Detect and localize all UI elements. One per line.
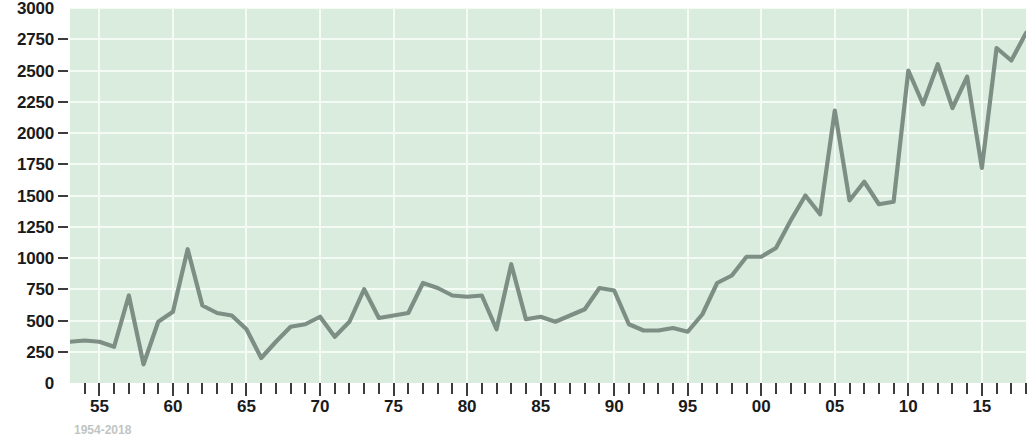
x-axis-label: 90 xyxy=(605,398,624,415)
y-axis-tick xyxy=(58,288,68,290)
x-axis-tick xyxy=(598,383,600,394)
y-axis-tick xyxy=(58,320,68,322)
x-axis-tick-major xyxy=(319,383,321,396)
x-axis-tick xyxy=(113,383,115,394)
x-axis-tick xyxy=(1010,383,1012,394)
y-axis-label: 500 xyxy=(26,312,54,329)
y-axis-label: 3000 xyxy=(17,0,54,17)
x-axis-tick xyxy=(275,383,277,394)
x-axis: 55606570758085909500051015 xyxy=(70,383,1026,435)
y-axis-label: 1500 xyxy=(17,187,54,204)
x-axis-tick-major xyxy=(540,383,542,396)
x-axis-tick xyxy=(290,383,292,394)
x-axis-tick xyxy=(966,383,968,394)
y-axis-label: 250 xyxy=(26,343,54,360)
x-axis-tick xyxy=(510,383,512,394)
x-axis-tick xyxy=(84,383,86,394)
x-axis-tick xyxy=(201,383,203,394)
x-axis-tick-major xyxy=(687,383,689,396)
y-axis-label: 1750 xyxy=(17,156,54,173)
x-axis-label: 60 xyxy=(163,398,182,415)
chart-caption: 1954-2018 xyxy=(74,424,131,435)
x-axis-tick xyxy=(437,383,439,394)
x-axis-label: 75 xyxy=(384,398,403,415)
x-axis-tick xyxy=(569,383,571,394)
x-axis-label: 95 xyxy=(678,398,697,415)
x-axis-tick-major xyxy=(466,383,468,396)
y-axis-label: 2750 xyxy=(17,31,54,48)
x-axis-tick xyxy=(893,383,895,394)
y-axis-tick xyxy=(58,38,68,40)
x-axis-tick xyxy=(746,383,748,394)
x-axis-tick xyxy=(951,383,953,394)
y-axis-label: 2250 xyxy=(17,93,54,110)
x-axis-tick-major xyxy=(834,383,836,396)
y-axis-label: 1000 xyxy=(17,250,54,267)
x-axis-tick-major xyxy=(981,383,983,396)
x-axis-tick xyxy=(878,383,880,394)
x-axis-tick xyxy=(231,383,233,394)
x-axis-label: 65 xyxy=(237,398,256,415)
y-axis-tick xyxy=(58,257,68,259)
x-axis-tick xyxy=(407,383,409,394)
x-axis-label: 85 xyxy=(531,398,550,415)
x-axis-tick xyxy=(304,383,306,394)
x-axis-tick xyxy=(216,383,218,394)
x-axis-tick xyxy=(187,383,189,394)
x-axis-tick xyxy=(731,383,733,394)
x-axis-tick xyxy=(422,383,424,394)
plot-area xyxy=(70,8,1026,383)
x-axis-tick-major xyxy=(613,383,615,396)
x-axis-tick xyxy=(128,383,130,394)
y-axis-label: 750 xyxy=(26,281,54,298)
x-axis-tick xyxy=(348,383,350,394)
y-axis-tick xyxy=(58,70,68,72)
x-axis-tick xyxy=(157,383,159,394)
x-axis-tick xyxy=(554,383,556,394)
y-axis-tick xyxy=(58,195,68,197)
y-axis-label: 0 xyxy=(45,375,54,392)
x-axis-tick xyxy=(628,383,630,394)
x-axis-label: 10 xyxy=(899,398,918,415)
x-axis-tick xyxy=(481,383,483,394)
x-axis-tick-major xyxy=(907,383,909,396)
y-axis-tick xyxy=(58,163,68,165)
x-axis-tick xyxy=(643,383,645,394)
x-axis-tick xyxy=(937,383,939,394)
y-axis-label: 2500 xyxy=(17,62,54,79)
x-axis-tick xyxy=(143,383,145,394)
x-axis-tick-major xyxy=(393,383,395,396)
x-axis-tick xyxy=(260,383,262,394)
x-axis-tick xyxy=(701,383,703,394)
y-axis-label: 2000 xyxy=(17,125,54,142)
x-axis-label: 55 xyxy=(90,398,109,415)
x-axis-tick xyxy=(496,383,498,394)
x-axis-tick xyxy=(849,383,851,394)
x-axis-tick-major xyxy=(172,383,174,396)
x-axis-tick-major xyxy=(98,383,100,396)
x-axis-tick xyxy=(775,383,777,394)
x-axis-tick-major xyxy=(760,383,762,396)
x-axis-label: 15 xyxy=(972,398,991,415)
x-axis-tick xyxy=(922,383,924,394)
x-axis-label: 80 xyxy=(458,398,477,415)
x-axis-tick xyxy=(672,383,674,394)
y-axis: 3000275025002250200017501500125010007505… xyxy=(0,0,56,435)
x-axis-tick xyxy=(804,383,806,394)
x-axis-tick xyxy=(790,383,792,394)
y-axis-tick xyxy=(58,132,68,134)
x-axis-label: 00 xyxy=(752,398,771,415)
data-series-line xyxy=(70,8,1026,383)
x-axis-tick xyxy=(716,383,718,394)
x-axis-tick xyxy=(525,383,527,394)
x-axis-label: 05 xyxy=(825,398,844,415)
x-axis-tick xyxy=(819,383,821,394)
y-axis-label: 1250 xyxy=(17,218,54,235)
x-axis-tick xyxy=(657,383,659,394)
x-axis-tick xyxy=(584,383,586,394)
x-axis-tick-major xyxy=(245,383,247,396)
y-axis-tick xyxy=(58,351,68,353)
x-axis-tick xyxy=(334,383,336,394)
y-axis-tick xyxy=(58,101,68,103)
x-axis-tick xyxy=(378,383,380,394)
